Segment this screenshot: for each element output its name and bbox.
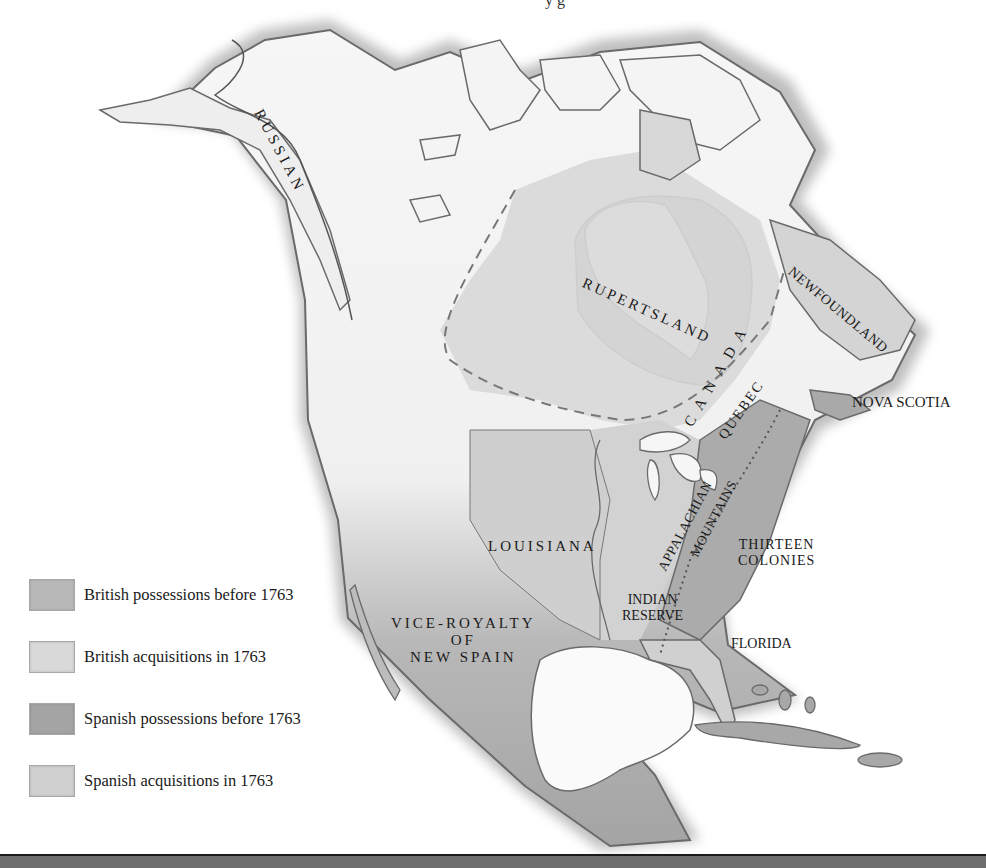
label-thirteen-colonies-line2: COLONIES	[738, 553, 815, 569]
label-thirteen-colonies: THIRTEEN COLONIES	[738, 537, 815, 569]
legend-label: Spanish acquisitions in 1763	[84, 771, 273, 791]
legend-item-spanish-acquisitions: Spanish acquisitions in 1763	[29, 750, 301, 812]
label-louisiana: LOUISIANA	[488, 538, 597, 555]
legend-label: Spanish possessions before 1763	[84, 709, 301, 729]
legend-swatch	[29, 703, 75, 735]
legend-label: British acquisitions in 1763	[84, 647, 266, 667]
label-thirteen-colonies-line1: THIRTEEN	[738, 537, 815, 553]
legend-label: British possessions before 1763	[84, 585, 293, 605]
legend-item-british-before: British possessions before 1763	[29, 564, 301, 626]
legend-swatch	[29, 765, 75, 797]
legend-swatch	[29, 641, 75, 673]
legend-swatch	[29, 579, 75, 611]
bottom-bar	[0, 854, 986, 868]
label-nova-scotia: NOVA SCOTIA	[852, 394, 951, 411]
map-legend: British possessions before 1763 British …	[29, 564, 301, 812]
label-indian-reserve-line2: RESERVE	[622, 608, 683, 624]
label-new-spain-line1: VICE-ROYALTY	[391, 615, 536, 632]
label-new-spain-line2: OF	[391, 632, 536, 649]
historical-map: RUSSIAN RUPERTSLAND NEWFOUNDLAND CANADA …	[0, 0, 986, 855]
legend-item-spanish-before: Spanish possessions before 1763	[29, 688, 301, 750]
gulf-of-mexico	[531, 647, 693, 791]
label-indian-reserve: INDIAN RESERVE	[622, 592, 683, 624]
label-indian-reserve-line1: INDIAN	[622, 592, 683, 608]
label-new-spain-line3: NEW SPAIN	[391, 649, 536, 666]
label-florida: FLORIDA	[731, 636, 792, 652]
legend-item-british-acquisitions: British acquisitions in 1763	[29, 626, 301, 688]
label-new-spain: VICE-ROYALTY OF NEW SPAIN	[391, 615, 536, 666]
